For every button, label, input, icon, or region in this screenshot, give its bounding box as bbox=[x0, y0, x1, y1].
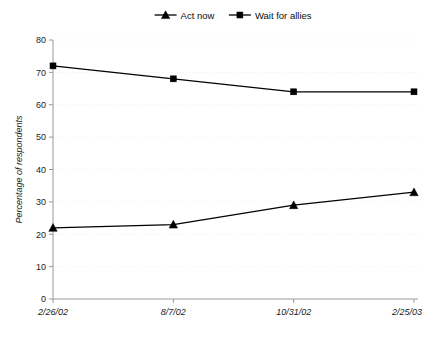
series-line-wait-for-allies bbox=[53, 66, 414, 92]
y-tick-label: 60 bbox=[36, 100, 46, 110]
legend-label: Wait for allies bbox=[255, 10, 312, 21]
data-series bbox=[49, 63, 418, 231]
axes bbox=[49, 40, 418, 303]
y-tick-label: 40 bbox=[36, 165, 46, 175]
legend-marker-square bbox=[237, 12, 243, 18]
y-tick-label: 70 bbox=[36, 68, 46, 78]
data-point-wait-for-allies bbox=[170, 76, 176, 82]
chart-container: 01020304050607080 2/26/028/7/0210/31/022… bbox=[0, 0, 443, 341]
legend-label: Act now bbox=[181, 10, 215, 21]
data-point-wait-for-allies bbox=[411, 89, 417, 95]
y-tick-label: 30 bbox=[36, 197, 46, 207]
y-axis-title-text: Percentage of respondents bbox=[14, 115, 24, 224]
y-tick-label: 50 bbox=[36, 132, 46, 142]
x-tick-label: 10/31/02 bbox=[276, 307, 311, 317]
y-tick-label: 20 bbox=[36, 230, 46, 240]
y-tick-label: 10 bbox=[36, 262, 46, 272]
y-tick-label: 80 bbox=[36, 35, 46, 45]
gridlines bbox=[54, 40, 418, 267]
x-tick-label: 2/26/02 bbox=[37, 307, 68, 317]
chart-legend: Act nowWait for allies bbox=[155, 10, 312, 21]
y-tick-label: 0 bbox=[41, 294, 46, 304]
data-point-wait-for-allies bbox=[291, 89, 297, 95]
x-tick-label: 2/25/03 bbox=[391, 307, 422, 317]
y-axis-tick-labels: 01020304050607080 bbox=[36, 35, 46, 304]
x-tick-label: 8/7/02 bbox=[161, 307, 186, 317]
x-axis-tick-labels: 2/26/028/7/0210/31/022/25/03 bbox=[37, 307, 422, 317]
line-chart: 01020304050607080 2/26/028/7/0210/31/022… bbox=[0, 0, 443, 341]
data-point-wait-for-allies bbox=[50, 63, 56, 69]
series-line-act-now bbox=[53, 192, 414, 228]
y-axis-title: Percentage of respondents bbox=[14, 115, 24, 224]
